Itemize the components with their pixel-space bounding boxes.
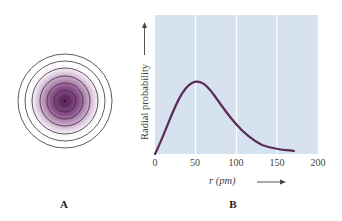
x-tick-0: 0 <box>153 157 158 168</box>
x-tick-50: 50 <box>190 157 200 168</box>
panel-label-b: B <box>229 198 236 210</box>
radial-probability-chart: Radial probability 0 50 100 150 200 r (p… <box>0 0 342 221</box>
x-tick-100: 100 <box>229 157 244 168</box>
x-axis-label: r (pm) <box>209 175 236 186</box>
x-tick-200: 200 <box>311 157 326 168</box>
x-tick-150: 150 <box>270 157 285 168</box>
y-axis-label: Radial probability <box>139 63 150 140</box>
